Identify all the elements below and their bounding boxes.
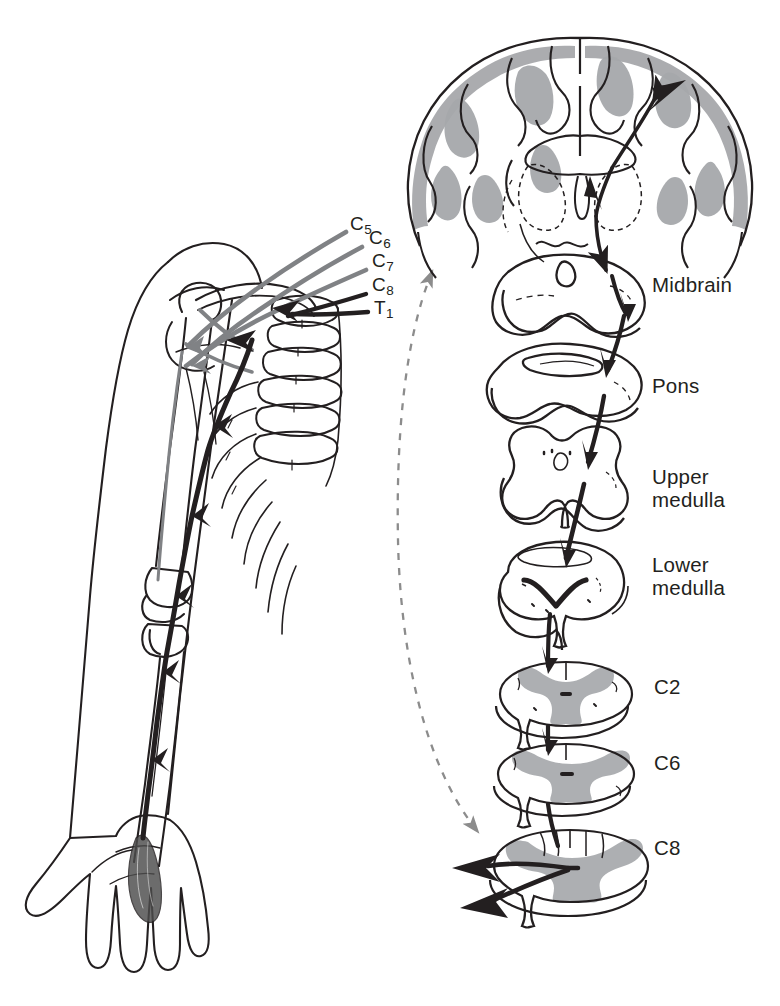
tract-c6-to-c8 bbox=[548, 804, 558, 846]
cerebral-aqueduct bbox=[557, 262, 576, 287]
corticospinal-tract-cerebrum bbox=[596, 100, 654, 270]
thumb-web-crease bbox=[92, 850, 132, 872]
radial-head bbox=[149, 630, 160, 654]
third-ventricle bbox=[575, 176, 589, 219]
cerebrum-coronal-section bbox=[408, 38, 752, 278]
upper-medulla-dots bbox=[544, 450, 570, 454]
midbrain-detail-1 bbox=[516, 295, 554, 300]
c8-dorsal-fold-4 bbox=[602, 834, 604, 858]
upper-medulla-detail bbox=[606, 472, 616, 488]
upper-medulla-outline bbox=[502, 426, 628, 527]
dorsal-columns bbox=[518, 548, 592, 567]
hand-intrinsic-muscle bbox=[129, 835, 162, 922]
anatomical-illustration bbox=[0, 0, 780, 1006]
tract-mid-to-midbrain bbox=[612, 276, 626, 314]
rib-tick-c bbox=[232, 486, 236, 494]
hand-outline bbox=[26, 815, 209, 972]
lower-medulla-fleck-2 bbox=[596, 578, 601, 592]
ventral-arrowhead-lower bbox=[460, 888, 508, 918]
pyramidal-decussation bbox=[524, 580, 586, 606]
lower-medulla-fleck-1 bbox=[522, 584, 526, 586]
arrowhead-into-upper-medulla bbox=[582, 440, 598, 470]
medulla-central-canal bbox=[554, 453, 568, 470]
upper-medulla-section bbox=[501, 426, 628, 530]
pons-detail-2 bbox=[614, 382, 630, 400]
nerve-root-t1 bbox=[292, 312, 368, 314]
figure-root: C5 C6 C7 C8 T1 Midbrain Pons Upper medul… bbox=[0, 0, 780, 1006]
c6-cord-section bbox=[494, 744, 634, 828]
c2-cord-section bbox=[496, 662, 632, 750]
pathway-arrowhead-1 bbox=[214, 414, 233, 438]
scapula-body bbox=[186, 368, 198, 440]
brachial-plexus-illustration bbox=[26, 232, 368, 972]
shoulder-contour bbox=[168, 243, 262, 288]
c8-cord-section bbox=[490, 830, 648, 928]
midline-squiggle bbox=[536, 242, 588, 247]
c2-fleck-2 bbox=[612, 682, 617, 692]
ventral-arrowhead-upper bbox=[452, 854, 500, 882]
c2-fleck-1 bbox=[518, 678, 520, 690]
pons-detail-1 bbox=[540, 361, 594, 366]
nerve-cord-gray bbox=[158, 352, 182, 580]
cns-column-illustration bbox=[408, 38, 752, 928]
dashed-connector bbox=[398, 272, 478, 832]
pons-section bbox=[487, 344, 642, 424]
